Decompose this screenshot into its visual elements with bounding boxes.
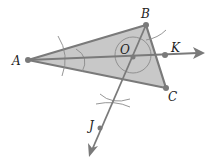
arrowhead-j-icon [88,143,98,157]
label-k: K [170,41,181,55]
point-o [131,55,136,60]
label-j: J [86,119,95,133]
point-a [25,57,31,63]
point-k [162,52,168,58]
point-j [98,126,103,131]
geometry-diagram: A B C O K J [0,0,215,162]
label-o: O [120,43,130,57]
label-b: B [140,7,150,21]
label-a: A [11,54,21,68]
point-b [143,22,149,28]
label-c: C [168,90,177,104]
